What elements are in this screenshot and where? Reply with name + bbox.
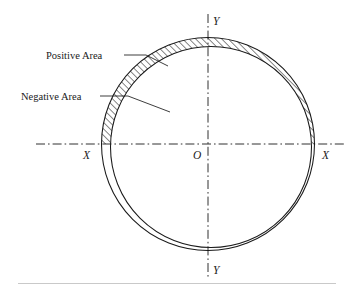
origin-label: O	[193, 150, 201, 162]
y-axis-label-top: Y	[213, 16, 219, 28]
cross-section-diagram	[0, 0, 355, 290]
footer-divider	[18, 283, 336, 284]
negative-area-label: Negative Area	[21, 92, 81, 103]
x-axis-label-right: X	[322, 150, 329, 162]
positive-area-hatch	[90, 28, 330, 144]
positive-area-label: Positive Area	[46, 51, 102, 62]
y-axis-label-bottom: Y	[213, 265, 219, 277]
figure-container: Positive Area Negative Area X X O Y Y	[0, 0, 355, 290]
x-axis-label-left: X	[83, 150, 90, 162]
